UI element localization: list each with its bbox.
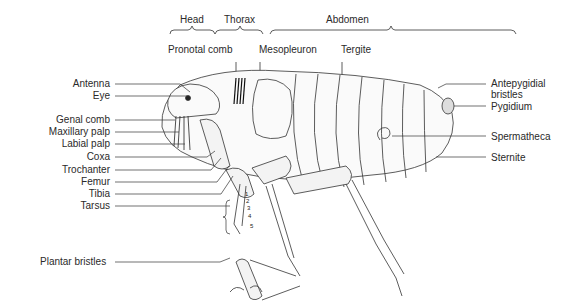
label-eye: Eye <box>93 90 110 101</box>
label-antepygidial-line2: bristles <box>491 89 545 100</box>
label-sternite: Sternite <box>491 152 525 163</box>
head-brace <box>170 26 215 34</box>
abdomen-brace <box>270 26 516 34</box>
tarsal-segment-4: 4 <box>248 213 252 219</box>
label-coxa: Coxa <box>87 151 110 162</box>
label-head: Head <box>180 14 204 25</box>
thorax-brace <box>215 26 263 34</box>
tarsal-segment-2: 2 <box>246 198 250 204</box>
label-abdomen: Abdomen <box>326 14 369 25</box>
label-mesopleuron: Mesopleuron <box>259 44 317 55</box>
label-tergite: Tergite <box>341 44 371 55</box>
label-spermatheca: Spermatheca <box>491 131 550 142</box>
label-tarsus: Tarsus <box>81 200 110 211</box>
label-antepygidial-bristles: Antepygidial bristles <box>491 78 545 100</box>
label-labial-palp: Labial palp <box>62 138 110 149</box>
tarsal-segment-3: 3 <box>247 205 251 211</box>
label-thorax: Thorax <box>224 14 255 25</box>
label-pronotal-comb: Pronotal comb <box>168 44 232 55</box>
label-genal-comb: Genal comb <box>56 114 110 125</box>
tarsal-segment-5: 5 <box>250 223 254 229</box>
label-femur: Femur <box>81 176 110 187</box>
label-tibia: Tibia <box>89 188 110 199</box>
label-maxillary-palp: Maxillary palp <box>49 126 110 137</box>
label-pygidium: Pygidium <box>491 101 532 112</box>
label-antenna: Antenna <box>73 78 110 89</box>
label-trochanter: Trochanter <box>62 164 110 175</box>
label-antepygidial-line1: Antepygidial <box>491 78 545 89</box>
label-plantar-bristles: Plantar bristles <box>40 256 106 267</box>
